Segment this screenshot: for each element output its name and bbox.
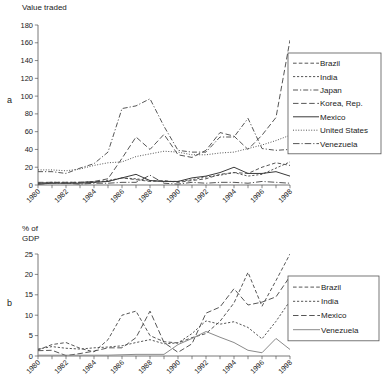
x-tick-label: 1980 xyxy=(24,358,42,376)
legend-label: Venezuela xyxy=(321,326,359,335)
legend-label: Korea, Rep. xyxy=(320,99,363,108)
x-tick-label: 1996 xyxy=(248,358,266,376)
series-line-brazil xyxy=(38,254,290,352)
x-tick-label: 1980 xyxy=(24,187,42,205)
panel-a-letter: a xyxy=(7,95,12,105)
legend-label: Brazil xyxy=(320,59,340,68)
x-tick-label: 1984 xyxy=(80,358,98,376)
series-line-mexico xyxy=(38,276,290,355)
x-tick-label: 1990 xyxy=(164,187,182,205)
panel-b-letter: b xyxy=(7,298,12,308)
legend: BrazilIndiaMexicoVenezuela xyxy=(288,276,379,341)
y-tick-label: 15 xyxy=(25,290,33,299)
y-tick-label: 20 xyxy=(25,270,33,279)
series-line-japan xyxy=(38,99,290,174)
y-tick-label: 120 xyxy=(20,74,33,83)
y-tick-label: 160 xyxy=(20,38,33,47)
panel-a-plot: 0204060801001201401601801980198219841986… xyxy=(0,0,382,220)
x-tick-label: 1988 xyxy=(136,187,154,205)
panel-a-value-traded: Value traded a 0204060801001201401601801… xyxy=(0,0,382,220)
legend-label: Mexico xyxy=(321,311,347,320)
x-tick-label: 1998 xyxy=(276,187,294,205)
x-tick-label: 1982 xyxy=(52,358,70,376)
panel-b-axis-title: % of GDP xyxy=(22,224,39,243)
x-tick-label: 1982 xyxy=(52,187,70,205)
x-tick-label: 1990 xyxy=(164,358,182,376)
legend-label: Brazil xyxy=(321,283,341,292)
x-tick-label: 1988 xyxy=(136,358,154,376)
panel-b-plot: 0510152025198019821984198619881990199219… xyxy=(0,220,382,386)
y-tick-label: 5 xyxy=(29,331,33,340)
legend-label: India xyxy=(320,73,338,82)
x-tick-label: 1986 xyxy=(108,187,126,205)
x-tick-label: 1992 xyxy=(192,358,210,376)
y-tick-label: 0 xyxy=(29,352,33,361)
legend-label: Japan xyxy=(320,86,342,95)
x-tick-label: 1994 xyxy=(220,187,238,205)
x-tick-label: 1986 xyxy=(108,358,126,376)
series-line-venezuela xyxy=(38,332,290,356)
legend-label: Mexico xyxy=(320,113,346,122)
y-tick-label: 40 xyxy=(25,145,33,154)
y-tick-label: 180 xyxy=(20,21,33,30)
y-tick-label: 25 xyxy=(25,250,33,259)
y-tick-label: 80 xyxy=(25,109,33,118)
x-tick-label: 1994 xyxy=(220,358,238,376)
y-tick-label: 60 xyxy=(25,127,33,136)
series-line-india xyxy=(38,162,290,183)
legend-label: United States xyxy=(320,126,368,135)
series-line-korea-rep xyxy=(38,40,290,182)
x-tick-label: 1998 xyxy=(276,358,294,376)
panel-a-axis-title: Value traded xyxy=(22,3,67,13)
x-tick-label: 1992 xyxy=(192,187,210,205)
legend: BrazilIndiaJapanKorea, Rep.MexicoUnited … xyxy=(288,53,381,154)
y-tick-label: 20 xyxy=(25,163,33,172)
x-tick-label: 1996 xyxy=(248,187,266,205)
y-tick-label: 140 xyxy=(20,56,33,65)
series-line-united-states xyxy=(38,135,290,171)
panel-b-percent-of-gdp: % of GDP b 05101520251980198219841986198… xyxy=(0,220,382,386)
legend-label: India xyxy=(321,297,339,306)
y-tick-label: 100 xyxy=(20,92,33,101)
y-tick-label: 10 xyxy=(25,311,33,320)
legend-label: Venezuela xyxy=(320,140,358,149)
x-tick-label: 1984 xyxy=(80,187,98,205)
y-tick-label: 0 xyxy=(29,181,33,190)
